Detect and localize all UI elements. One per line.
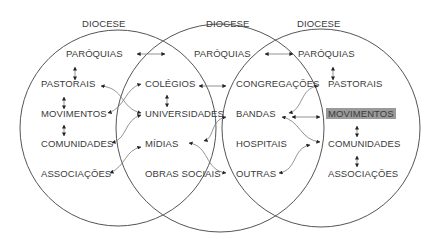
left-diocese-circle — [20, 30, 216, 226]
right-associacoes-label: ASSOCIAÇÕES — [328, 168, 398, 179]
diagram-graphics — [0, 0, 435, 242]
bandas-label: BANDAS — [236, 108, 276, 119]
left-diocese-title: DIOCESE — [82, 18, 125, 29]
left-associacoes-label: ASSOCIAÇÕES — [41, 168, 111, 179]
right-movimentos-label-highlighted: MOVIMENTOS — [326, 108, 396, 119]
left-comunidades-label: COMUNIDADES — [41, 138, 113, 149]
left-paroquias-label: PARÓQUIAS — [66, 48, 123, 59]
left-movimentos-label: MOVIMENTOS — [41, 108, 107, 119]
right-comunidades-label: COMUNIDADES — [328, 138, 400, 149]
right-diocese-title: DIOCESE — [297, 18, 340, 29]
middle-colegios-label: COLÉGIOS — [145, 78, 195, 89]
hospitais-label: HOSPITAIS — [236, 138, 287, 149]
left-pastorais-label: PASTORAIS — [41, 78, 95, 89]
venn-diagram: DIOCESE DIOCESE DIOCESE PARÓQUIAS PASTOR… — [0, 0, 435, 242]
middle-paroquias-label: PARÓQUIAS — [194, 48, 251, 59]
middle-obras-sociais-label: OBRAS SOCIAIS — [145, 168, 221, 179]
right-pastorais-label: PASTORAIS — [328, 78, 382, 89]
right-paroquias-label: PARÓQUIAS — [298, 48, 355, 59]
middle-diocese-title: DIOCESE — [206, 18, 249, 29]
middle-universidades-label: UNIVERSIDADES — [145, 108, 224, 119]
congregacoes-label: CONGREGAÇÕES — [236, 78, 320, 89]
outras-label: OUTRAS — [236, 168, 276, 179]
middle-midias-label: MÍDIAS — [145, 138, 178, 149]
